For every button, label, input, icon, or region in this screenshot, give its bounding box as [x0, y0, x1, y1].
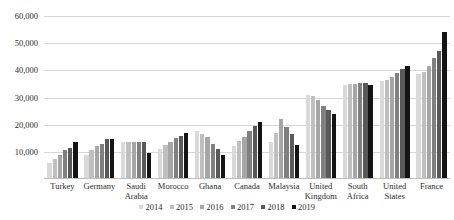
bar — [432, 58, 436, 179]
bar — [63, 150, 67, 179]
bar — [311, 96, 315, 179]
bar-groups — [44, 16, 450, 179]
bar — [53, 159, 57, 179]
bar-group — [413, 16, 450, 179]
y-axis-tick-label: 50,000 — [15, 39, 38, 48]
legend-swatch-icon — [261, 205, 265, 209]
legend-label: 2019 — [298, 203, 315, 212]
bar — [158, 149, 162, 179]
legend-item: 2017 — [231, 203, 255, 212]
chart-legend: 201420152016201720182019 — [0, 203, 454, 212]
bar — [269, 142, 273, 179]
bar — [110, 139, 114, 179]
bar — [200, 134, 204, 179]
bar — [95, 146, 99, 179]
bar — [306, 95, 310, 179]
bar — [253, 126, 257, 179]
bar — [205, 137, 209, 179]
legend-swatch-icon — [170, 205, 174, 209]
y-axis: 60,00050,00040,00030,00020,00010,000 — [0, 0, 44, 179]
bar — [332, 114, 336, 179]
bar-group — [155, 16, 192, 179]
bar — [163, 145, 167, 179]
bar — [147, 153, 151, 179]
bar — [422, 72, 426, 179]
bar — [137, 142, 141, 179]
bar — [58, 155, 62, 179]
legend-item: 2014 — [139, 203, 163, 212]
legend-swatch-icon — [292, 205, 296, 209]
bar — [427, 66, 431, 179]
bar-chart: 60,00050,00040,00030,00020,00010,000 Tur… — [0, 0, 454, 220]
bar — [221, 155, 225, 179]
bar — [343, 85, 347, 179]
bar — [380, 81, 384, 179]
bar — [73, 142, 77, 179]
bar — [295, 145, 299, 179]
legend-label: 2016 — [207, 203, 224, 212]
legend-swatch-icon — [200, 205, 204, 209]
bar-group — [229, 16, 266, 179]
bar-group — [192, 16, 229, 179]
bar — [184, 133, 188, 179]
legend-item: 2019 — [292, 203, 316, 212]
bar — [385, 80, 389, 179]
bar — [284, 127, 288, 179]
legend-label: 2018 — [268, 203, 285, 212]
y-axis-tick-label: 60,000 — [15, 12, 38, 21]
plot-area — [44, 16, 450, 179]
bar — [105, 139, 109, 179]
bar — [168, 142, 172, 179]
bar — [390, 77, 394, 179]
bar-group — [376, 16, 413, 179]
bar — [358, 83, 362, 179]
bar — [100, 144, 104, 179]
bar-group — [118, 16, 155, 179]
bar — [326, 110, 330, 179]
bar-group — [81, 16, 118, 179]
bar — [68, 148, 72, 179]
bar — [316, 100, 320, 179]
legend-label: 2014 — [146, 203, 163, 212]
bar — [363, 83, 367, 179]
bar — [290, 134, 294, 179]
bar-group — [302, 16, 339, 179]
legend-label: 2015 — [176, 203, 193, 212]
y-axis-tick-label: 20,000 — [15, 120, 38, 129]
bar — [416, 74, 420, 179]
bar — [247, 131, 251, 179]
bar — [174, 138, 178, 179]
bar — [437, 51, 441, 179]
y-axis-tick-label: 40,000 — [15, 66, 38, 75]
bar — [348, 84, 352, 179]
bar — [179, 136, 183, 179]
bar — [195, 131, 199, 179]
bar — [47, 163, 51, 179]
legend-swatch-icon — [139, 205, 143, 209]
bar — [216, 149, 220, 179]
bar — [274, 133, 278, 179]
legend-item: 2016 — [200, 203, 224, 212]
bar — [84, 155, 88, 179]
axis-baseline — [44, 178, 450, 179]
bar — [279, 119, 283, 179]
y-axis-tick-label: 30,000 — [15, 93, 38, 102]
legend-item: 2015 — [170, 203, 194, 212]
bar-group — [44, 16, 81, 179]
bar — [405, 66, 409, 179]
bar — [442, 32, 446, 179]
bar — [321, 106, 325, 179]
bar — [126, 142, 130, 179]
bar — [89, 150, 93, 179]
bar — [132, 142, 136, 179]
bar — [211, 144, 215, 179]
legend-item: 2018 — [261, 203, 285, 212]
legend-label: 2017 — [237, 203, 254, 212]
bar-group — [339, 16, 376, 179]
bar — [353, 84, 357, 179]
bar — [368, 85, 372, 179]
bar-group — [265, 16, 302, 179]
bar — [121, 142, 125, 179]
legend-swatch-icon — [231, 205, 235, 209]
bar — [400, 69, 404, 179]
